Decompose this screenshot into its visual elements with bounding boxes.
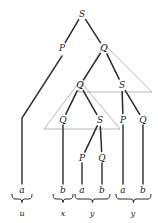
brace-g1 bbox=[12, 195, 32, 203]
node-label-n6: Q bbox=[59, 116, 66, 125]
group-label-g1: u bbox=[19, 210, 24, 218]
leaf-label-l2: b bbox=[60, 186, 66, 195]
brace-g3 bbox=[75, 195, 110, 203]
node-label-n5: S bbox=[119, 81, 125, 90]
node-label-n10: P bbox=[79, 154, 85, 163]
node-label-n7: S bbox=[97, 116, 103, 125]
node-label-n11: Q bbox=[98, 154, 105, 163]
node-label-n3: Q bbox=[100, 44, 107, 53]
node-label-n4: Q bbox=[76, 81, 83, 90]
branch-n7-n11 bbox=[100, 126, 101, 151]
leaf-label-l4: b bbox=[99, 186, 105, 195]
constituent-triangle-1 bbox=[78, 44, 152, 92]
leaf-label-l1: a bbox=[19, 186, 24, 195]
branch-n4-n7 bbox=[83, 91, 97, 115]
branch-n5-n8 bbox=[122, 91, 123, 113]
branch-n4-n6 bbox=[66, 91, 77, 114]
leaf-label-l3: a bbox=[79, 186, 84, 195]
leaf-label-l6: b bbox=[140, 186, 146, 195]
group-label-g4: y bbox=[131, 210, 136, 218]
diagram-canvas: SPQQSQSPQPQ ababab uxyy bbox=[0, 0, 158, 223]
group-braces bbox=[12, 195, 151, 203]
leaf-label-l5: a bbox=[120, 186, 125, 195]
node-label-n9: Q bbox=[139, 116, 146, 125]
node-label-n1: S bbox=[79, 10, 85, 19]
branch-n5-n9 bbox=[125, 91, 139, 115]
branch-n3-n4 bbox=[84, 53, 101, 79]
node-label-n8: P bbox=[120, 116, 126, 125]
group-label-g3: y bbox=[90, 210, 95, 218]
brace-g2 bbox=[53, 195, 73, 203]
node-label-n2: P bbox=[59, 44, 65, 53]
group-label-g2: x bbox=[61, 210, 66, 218]
branch-n1-n3 bbox=[86, 19, 101, 42]
leaf-stem-l1 bbox=[22, 56, 62, 184]
brace-g4 bbox=[116, 195, 151, 203]
branch-n1-n2 bbox=[65, 20, 78, 43]
branch-n7-n10 bbox=[85, 126, 97, 152]
